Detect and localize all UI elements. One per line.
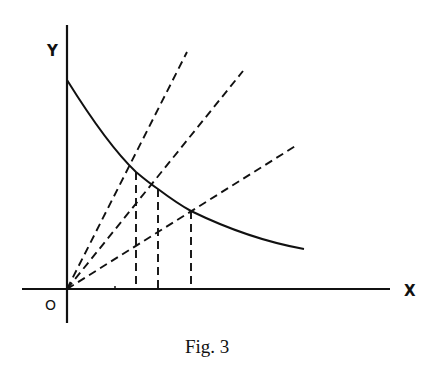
figure-diagram: Y X O Fig. 3 <box>0 0 431 374</box>
ray-2 <box>67 71 243 289</box>
figure-caption: Fig. 3 <box>185 336 229 357</box>
ray-1 <box>67 52 187 289</box>
origin-label: O <box>45 297 56 313</box>
y-axis-label: Y <box>46 42 59 60</box>
rays <box>67 52 297 289</box>
drop-lines <box>136 172 191 289</box>
curve <box>67 80 304 249</box>
x-axis-label: X <box>404 282 416 300</box>
ray-3 <box>67 145 297 289</box>
